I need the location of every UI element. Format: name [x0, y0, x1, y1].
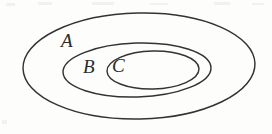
scan-speck: [252, 3, 264, 5]
nested-ellipse-diagram: [0, 0, 272, 134]
scan-speck: [92, 2, 114, 5]
ellipse-set-a: [22, 11, 256, 122]
figure-canvas: A B C: [0, 0, 272, 134]
scan-speck: [2, 120, 7, 124]
set-label-a: A: [61, 31, 73, 50]
scan-speck: [6, 3, 15, 6]
scan-speck: [38, 2, 52, 5]
scan-speck: [150, 3, 168, 5]
scan-speck: [214, 2, 230, 5]
set-label-c: C: [112, 56, 125, 75]
set-label-b: B: [83, 57, 95, 76]
